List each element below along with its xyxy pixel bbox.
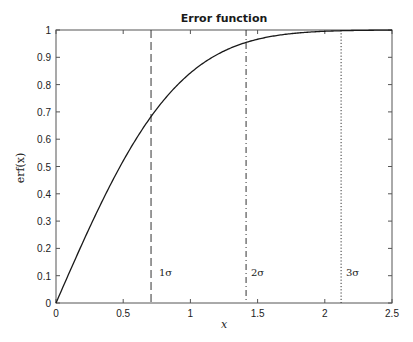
y-tick-label: 0.9: [37, 52, 51, 63]
y-axis-ticks: 00.10.20.30.40.50.60.70.80.91: [37, 25, 392, 309]
y-axis-label: erf(x): [14, 153, 27, 184]
y-tick-label: 0.7: [37, 107, 51, 118]
erf-curve: [56, 30, 392, 303]
sigma-lines: [151, 30, 341, 303]
sigma1-label: 1σ: [159, 267, 172, 278]
y-tick-label: 0.4: [37, 189, 51, 200]
x-tick-label: 0: [53, 308, 59, 319]
y-tick-label: 0.6: [37, 134, 51, 145]
y-tick-label: 0.1: [37, 271, 51, 282]
x-tick-label: 2.5: [385, 308, 399, 319]
x-tick-label: 1.5: [251, 308, 265, 319]
error-function-chart: Error function 00.511.522.5 00.10.20.30.…: [0, 0, 413, 342]
y-tick-label: 1: [45, 25, 51, 36]
plot-frame: [56, 30, 392, 303]
x-axis-label: x: [221, 318, 228, 331]
x-tick-label: 0.5: [116, 308, 130, 319]
y-tick-label: 0.8: [37, 80, 51, 91]
x-tick-label: 1: [188, 308, 194, 319]
y-tick-label: 0: [45, 298, 51, 309]
sigma3-label: 3σ: [346, 267, 359, 278]
chart-title: Error function: [181, 12, 268, 25]
x-tick-label: 2: [322, 308, 328, 319]
y-tick-label: 0.3: [37, 216, 51, 227]
y-tick-label: 0.5: [37, 162, 51, 173]
sigma2-label: 2σ: [251, 267, 264, 278]
y-tick-label: 0.2: [37, 243, 51, 254]
